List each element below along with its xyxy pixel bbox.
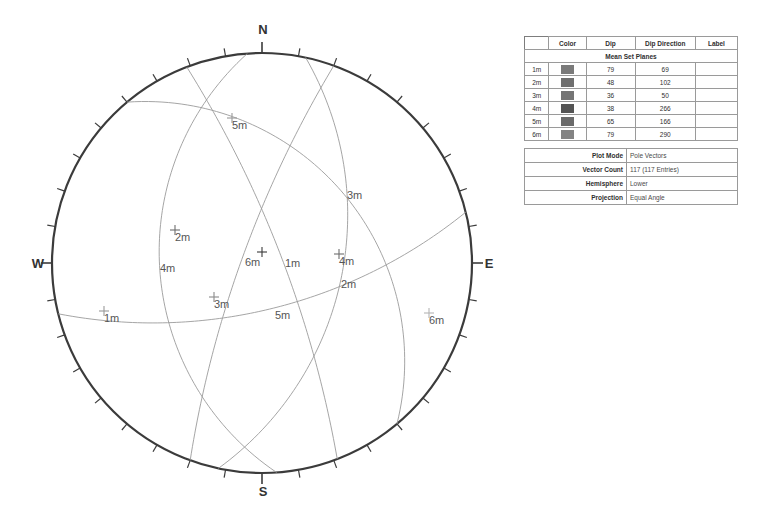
set-row[interactable]: 5m65166	[525, 115, 738, 128]
great-circle-label: 5m	[275, 309, 290, 321]
azimuth-tick	[469, 299, 477, 300]
set-dip: 79	[586, 128, 635, 141]
azimuth-tick	[444, 154, 451, 158]
azimuth-tick	[73, 154, 80, 158]
pole-marker: 6m	[424, 308, 444, 326]
set-dip: 65	[586, 115, 635, 128]
pole-marker: 3m	[209, 292, 229, 310]
sets-table-header-row: Color Dip Dip Direction Label	[525, 37, 738, 50]
set-row[interactable]: 4m38266	[525, 102, 738, 115]
azimuth-tick	[298, 48, 299, 56]
great-circle-label: 4m	[160, 262, 175, 274]
azimuth-tick	[153, 74, 157, 81]
azimuth-tick	[397, 424, 402, 430]
set-id: 2m	[525, 76, 549, 89]
info-key: Projection	[525, 191, 627, 205]
info-key: Hemisphere	[525, 177, 627, 191]
azimuth-tick	[47, 299, 55, 300]
cardinal-label-N: N	[258, 22, 267, 37]
pole-label: 4m	[339, 255, 354, 267]
cardinal-label-S: S	[259, 484, 268, 499]
azimuth-tick	[153, 445, 157, 452]
stereonet-canvas: 1m2m3m4m5m6m 1m2m3m4m5m6m NESW	[0, 0, 515, 519]
pole-label: 3m	[214, 298, 229, 310]
set-color-cell[interactable]	[549, 128, 586, 141]
mean-set-planes-banner: Mean Set Planes	[525, 50, 738, 63]
azimuth-tick	[95, 398, 101, 403]
pole-label: 6m	[429, 314, 444, 326]
set-dip: 36	[586, 89, 635, 102]
sets-table-head: Color Dip Dip Direction Label Mean Set P…	[525, 37, 738, 63]
azimuth-tick	[367, 445, 371, 452]
azimuth-tick	[367, 74, 371, 81]
azimuth-tick	[469, 225, 477, 226]
pole-label: 1m	[104, 312, 119, 324]
azimuth-tick	[187, 460, 190, 468]
azimuth-ticks	[41, 42, 483, 484]
set-color-cell[interactable]	[549, 102, 586, 115]
set-color-cell[interactable]	[549, 63, 586, 76]
set-dip-direction: 50	[635, 89, 695, 102]
azimuth-tick	[73, 368, 80, 372]
set-label	[695, 89, 737, 102]
set-id: 6m	[525, 128, 549, 141]
color-swatch	[561, 104, 574, 113]
azimuth-tick	[57, 188, 65, 191]
great-circle-label: 1m	[285, 257, 300, 269]
azimuth-tick	[187, 58, 190, 66]
legend-panel: Color Dip Dip Direction Label Mean Set P…	[524, 36, 738, 205]
info-value: 117 (117 Entries)	[627, 163, 738, 177]
pole-label: 2m	[175, 231, 190, 243]
info-row: ProjectionEqual Angle	[525, 191, 738, 205]
header-dip-direction: Dip Direction	[635, 37, 695, 50]
azimuth-tick	[224, 48, 225, 56]
color-swatch	[561, 91, 574, 100]
info-row: Plot ModePole Vectors	[525, 149, 738, 163]
header-id	[525, 37, 549, 50]
azimuth-tick	[47, 225, 55, 226]
set-row[interactable]: 6m79290	[525, 128, 738, 141]
info-value: Lower	[627, 177, 738, 191]
color-swatch	[561, 78, 574, 87]
great-circle-6m	[190, 66, 334, 461]
pole-marker: 1m	[99, 306, 119, 324]
great-circle-1m	[187, 67, 338, 459]
plot-info-body: Plot ModePole VectorsVector Count117 (11…	[525, 149, 738, 205]
info-key: Plot Mode	[525, 149, 627, 163]
header-label: Label	[695, 37, 737, 50]
azimuth-tick	[122, 96, 127, 102]
great-circle-label: 3m	[347, 189, 362, 201]
great-circle-5m	[58, 212, 466, 323]
info-key: Vector Count	[525, 163, 627, 177]
azimuth-tick	[95, 123, 101, 128]
set-dip: 79	[586, 63, 635, 76]
info-value: Pole Vectors	[627, 149, 738, 163]
set-dip-direction: 102	[635, 76, 695, 89]
header-color: Color	[549, 37, 586, 50]
set-color-cell[interactable]	[549, 89, 586, 102]
color-swatch	[561, 117, 574, 126]
azimuth-tick	[298, 470, 299, 478]
set-label	[695, 76, 737, 89]
sets-table-body: 1m79692m481023m36504m382665m651666m79290	[525, 63, 738, 141]
set-label	[695, 115, 737, 128]
pole-marker: 4m	[334, 249, 354, 267]
great-circles	[58, 54, 466, 473]
set-row[interactable]: 1m7969	[525, 63, 738, 76]
set-id: 1m	[525, 63, 549, 76]
set-color-cell[interactable]	[549, 115, 586, 128]
set-label	[695, 63, 737, 76]
header-dip: Dip	[586, 37, 635, 50]
set-row[interactable]: 2m48102	[525, 76, 738, 89]
azimuth-tick	[423, 123, 429, 128]
set-dip-direction: 166	[635, 115, 695, 128]
set-id: 4m	[525, 102, 549, 115]
set-row[interactable]: 3m3650	[525, 89, 738, 102]
set-id: 5m	[525, 115, 549, 128]
azimuth-tick	[459, 188, 467, 191]
cardinal-label-E: E	[485, 256, 494, 271]
set-color-cell[interactable]	[549, 76, 586, 89]
azimuth-tick	[423, 398, 429, 403]
color-swatch	[561, 65, 574, 74]
great-circle-label: 2m	[341, 278, 356, 290]
